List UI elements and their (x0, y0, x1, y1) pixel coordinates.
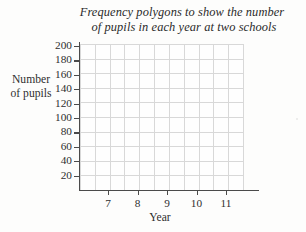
grid-line-horizontal (80, 117, 243, 118)
y-axis-line (79, 42, 80, 191)
y-axis-tick (74, 104, 80, 105)
paper-speckle (296, 118, 298, 120)
grid-line-horizontal (80, 132, 243, 133)
x-axis-tick (197, 190, 198, 195)
x-axis-line (79, 190, 259, 191)
x-axis-tick (138, 190, 139, 195)
chart-title: Frequency polygons to show the number of… (62, 5, 302, 34)
grid-line-horizontal (80, 175, 243, 176)
y-axis-tick-label: 200 (44, 40, 72, 51)
grid-line-horizontal (80, 44, 243, 45)
x-axis-tick (108, 190, 109, 195)
frequency-polygon-chart: Frequency polygons to show the number of… (0, 0, 306, 232)
grid-line-horizontal (80, 88, 243, 89)
grid-line-horizontal (80, 73, 243, 74)
y-axis-tick (74, 132, 80, 133)
x-axis-tick-label: 10 (187, 197, 207, 209)
y-axis-tick-label: 160 (44, 69, 72, 80)
plot-area (80, 44, 243, 190)
y-axis-tick (74, 118, 80, 119)
y-axis-tick (74, 161, 80, 162)
y-axis-tick (74, 89, 80, 90)
y-axis-tick-label: 180 (44, 54, 72, 65)
y-axis-tick-label: 20 (44, 170, 72, 181)
grid-line-horizontal (80, 59, 243, 60)
y-axis-tick-label: 80 (44, 126, 72, 137)
y-axis-tick (74, 176, 80, 177)
y-axis-tick (74, 46, 80, 47)
x-axis-tick (167, 190, 168, 195)
y-axis-tick-label: 40 (44, 155, 72, 166)
y-axis-tick (74, 60, 80, 61)
x-axis-tick-label: 11 (216, 197, 236, 209)
y-axis-tick-label: 60 (44, 141, 72, 152)
grid-line-horizontal (80, 161, 243, 162)
chart-title-line-2: of pupils in each year at two schools (66, 20, 302, 35)
x-axis-tick (226, 190, 227, 195)
y-axis-tick (74, 75, 80, 76)
y-axis-tick (74, 147, 80, 148)
x-axis-tick-label: 8 (128, 197, 148, 209)
x-axis-tick-label: 7 (98, 197, 118, 209)
x-axis-label: Year (110, 211, 210, 224)
y-axis-tick-label: 100 (44, 112, 72, 123)
y-axis-tick-label: 140 (44, 83, 72, 94)
chart-title-line-1: Frequency polygons to show the number (62, 5, 302, 20)
grid-line-vertical (243, 44, 244, 190)
grid-line-horizontal (80, 146, 243, 147)
grid-line-horizontal (80, 102, 243, 103)
x-axis-tick-label: 9 (157, 197, 177, 209)
y-axis-tick-label: 120 (44, 98, 72, 109)
grid-layer (80, 44, 243, 190)
